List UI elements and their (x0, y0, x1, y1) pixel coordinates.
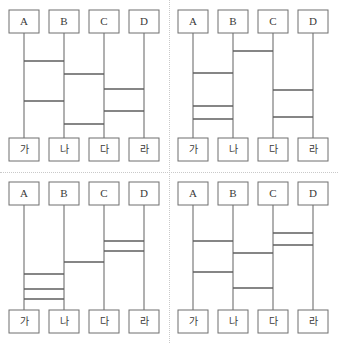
ladder-svg-top-left: ABCD가나다라 (0, 0, 169, 171)
ladder-bottom-node-label-0: 가 (189, 316, 198, 327)
ladder-top-node-label-D: D (309, 15, 317, 27)
ladder-top-node-label-D: D (140, 15, 148, 27)
ladder-top-node-label-B: B (60, 15, 67, 27)
ladder-top-node-label-A: A (189, 15, 197, 27)
ladder-bottom-node-label-3: 라 (309, 316, 318, 327)
ladder-bottom-node-label-1: 나 (229, 316, 238, 327)
ladder-top-node-label-A: A (20, 187, 28, 199)
ladder-bottom-node-label-0: 가 (20, 316, 29, 327)
ladder-panel-bottom-left: ABCD가나다라 (0, 172, 169, 343)
ladder-svg-bottom-left: ABCD가나다라 (0, 172, 169, 343)
ladder-bottom-node-label-3: 라 (140, 144, 149, 155)
ladder-top-node-label-B: B (60, 187, 67, 199)
ladder-bottom-node-label-2: 다 (269, 144, 278, 155)
ladder-panel-top-right: ABCD가나다라 (169, 0, 338, 171)
ladder-bottom-node-label-2: 다 (269, 316, 278, 327)
ladder-bottom-node-label-3: 라 (140, 316, 149, 327)
ladder-panel-top-left: ABCD가나다라 (0, 0, 169, 171)
ladder-bottom-node-label-0: 가 (20, 144, 29, 155)
ladder-panel-bottom-right: ABCD가나다라 (169, 172, 338, 343)
ladder-top-node-label-C: C (269, 15, 276, 27)
ladder-bottom-node-label-2: 다 (100, 316, 109, 327)
ladder-top-node-label-A: A (20, 15, 28, 27)
ladder-svg-top-right: ABCD가나다라 (169, 0, 338, 171)
ladder-top-node-label-C: C (100, 187, 107, 199)
ladder-bottom-node-label-0: 가 (189, 144, 198, 155)
ladder-top-node-label-C: C (100, 15, 107, 27)
ladder-bottom-node-label-1: 나 (60, 144, 69, 155)
ladder-top-node-label-D: D (309, 187, 317, 199)
ladder-bottom-node-label-2: 다 (100, 144, 109, 155)
ladder-top-node-label-B: B (229, 187, 236, 199)
ladder-bottom-node-label-1: 나 (60, 316, 69, 327)
ladder-top-node-label-D: D (140, 187, 148, 199)
ladder-top-node-label-A: A (189, 187, 197, 199)
ladder-top-node-label-C: C (269, 187, 276, 199)
ladder-bottom-node-label-3: 라 (309, 144, 318, 155)
ladder-diagram-grid: ABCD가나다라 ABCD가나다라 ABCD가나다라 ABCD가나다라 (0, 0, 338, 343)
ladder-svg-bottom-right: ABCD가나다라 (169, 172, 338, 343)
ladder-bottom-node-label-1: 나 (229, 144, 238, 155)
ladder-top-node-label-B: B (229, 15, 236, 27)
